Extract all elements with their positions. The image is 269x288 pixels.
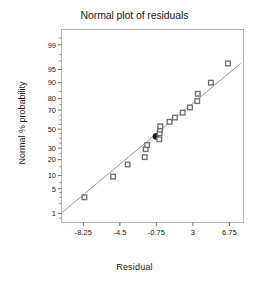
x-axis: -8.25-4.5-0.7536.75 [75,223,237,238]
y-tick-label: 5 [52,185,56,194]
data-points [82,61,230,199]
x-tick-label: -8.25 [75,228,92,237]
y-axis: 99959080705030201051 [48,38,62,218]
data-point [145,143,150,148]
data-point [158,124,163,129]
data-point [142,155,147,160]
y-tick-label: 99 [48,41,56,50]
data-point [209,80,214,85]
y-tick-label: 90 [48,78,56,87]
plot-frame [62,30,244,223]
normal-probability-plot: Normal plot of residuals 999590807050302… [0,0,269,288]
x-tick-label: -4.5 [113,228,126,237]
data-point [195,92,200,97]
y-axis-label: Normal % probability [17,63,27,183]
data-point [180,110,185,115]
x-tick-label: 3 [191,228,195,237]
data-point [226,61,231,66]
y-tick-label: 80 [48,94,56,103]
plot-border [62,30,244,223]
y-tick-label: 50 [48,125,56,134]
data-point [167,119,172,124]
data-point [125,162,130,167]
data-point [188,105,193,110]
y-tick-label: 10 [48,171,56,180]
data-point [173,115,178,120]
y-tick-label: 70 [48,106,56,115]
y-tick-label: 20 [48,155,56,164]
data-point [195,99,200,104]
x-tick-label: 6.75 [222,228,237,237]
data-point [111,174,116,179]
plot-canvas: 99959080705030201051 -8.25-4.5-0.7536.75 [0,0,269,288]
y-tick-label: 30 [48,144,56,153]
x-tick-label: -0.75 [148,228,165,237]
reference-line [62,63,240,212]
y-tick-label: 1 [52,209,56,218]
x-axis-label: Residual [0,262,269,272]
normal-reference-line [62,63,240,212]
data-point [82,195,87,200]
data-point [157,137,162,142]
y-tick-label: 95 [48,65,56,74]
